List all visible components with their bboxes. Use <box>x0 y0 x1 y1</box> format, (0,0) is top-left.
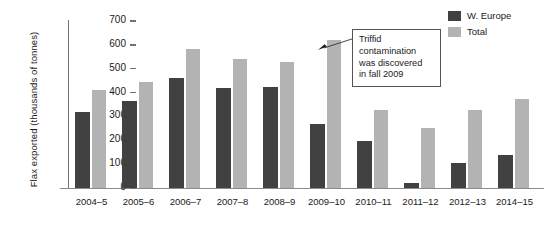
bar-w-europe <box>357 141 372 188</box>
bar-group <box>263 21 294 188</box>
bar-group <box>169 21 200 188</box>
bar-w-europe <box>404 183 419 188</box>
annotation-line: contamination <box>359 46 435 58</box>
bar-total <box>233 59 248 188</box>
bar-w-europe <box>75 112 90 188</box>
bar-total <box>327 40 342 188</box>
x-axis-label: 2008–9 <box>256 196 303 207</box>
bar-w-europe <box>216 88 231 188</box>
x-axis-label: 2014–15 <box>491 196 538 207</box>
bar-group <box>122 21 153 188</box>
y-axis-title: Flax exported (thousands of tonnes) <box>28 15 39 205</box>
bar-w-europe <box>498 155 513 188</box>
bar-w-europe <box>310 124 325 188</box>
legend-label: Total <box>467 26 487 37</box>
legend-label: W. Europe <box>467 10 511 21</box>
bar-group <box>451 21 482 188</box>
bar-total <box>92 90 107 188</box>
legend-swatch-icon <box>448 27 461 37</box>
bar-w-europe <box>451 163 466 188</box>
bar-chart: Flax exported (thousands of tonnes) 0100… <box>0 0 552 227</box>
bar-w-europe <box>122 101 137 188</box>
bar-total <box>186 49 201 188</box>
x-axis-label: 2004–5 <box>68 196 115 207</box>
bar-total <box>139 82 154 188</box>
x-axis-label: 2006–7 <box>162 196 209 207</box>
bar-total <box>515 99 530 188</box>
plot-area: 0100200300400500600700 <box>68 21 538 188</box>
annotation-line: Triffid <box>359 34 435 46</box>
x-axis-label: 2009–10 <box>303 196 350 207</box>
bar-total <box>374 110 389 188</box>
x-axis-label: 2012–13 <box>444 196 491 207</box>
x-axis-label: 2007–8 <box>209 196 256 207</box>
annotation-line: in fall 2009 <box>359 69 435 81</box>
legend-item-w-europe: W. Europe <box>448 10 511 21</box>
legend-swatch-icon <box>448 11 461 21</box>
bar-w-europe <box>169 78 184 188</box>
chart-legend: W. Europe Total <box>448 10 511 42</box>
legend-item-total: Total <box>448 26 511 37</box>
annotation-callout: Triffid contamination was discovered in … <box>352 29 441 87</box>
bar-total <box>421 128 436 188</box>
bar-total <box>468 110 483 188</box>
x-axis-label: 2005–6 <box>115 196 162 207</box>
bar-w-europe <box>263 87 278 188</box>
bar-group <box>75 21 106 188</box>
bar-group <box>498 21 529 188</box>
bar-group <box>216 21 247 188</box>
x-axis-label: 2010–11 <box>350 196 397 207</box>
x-axis-label: 2011–12 <box>397 196 444 207</box>
annotation-line: was discovered <box>359 58 435 70</box>
bar-total <box>280 62 295 188</box>
